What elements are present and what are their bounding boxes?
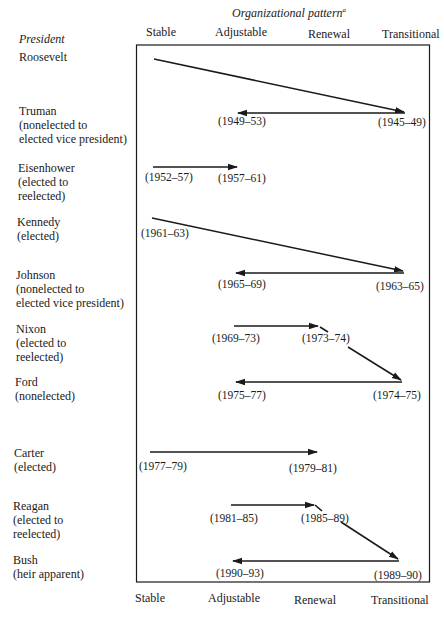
period-label: (1990–93) bbox=[216, 567, 264, 579]
column-header-transitional-bottom: Transitional bbox=[371, 593, 429, 608]
period-label: (1949–53) bbox=[218, 115, 266, 127]
period-label: (1977–79) bbox=[139, 460, 187, 472]
period-label: (1969–73) bbox=[212, 332, 260, 344]
arrow-roosevelt-to-transitional bbox=[154, 59, 404, 112]
period-label: (1981–85) bbox=[210, 512, 258, 524]
arrow-reagan-to-transitional bbox=[341, 522, 398, 559]
period-label: (1945–49) bbox=[378, 116, 426, 128]
period-label: (1963–65) bbox=[376, 280, 424, 292]
period-label: (1965–69) bbox=[218, 278, 266, 290]
pattern-diagram bbox=[0, 0, 444, 617]
period-label: (1979–81) bbox=[289, 462, 337, 474]
period-label: (1961–63) bbox=[141, 227, 189, 239]
column-header-renewal-bottom: Renewal bbox=[294, 593, 336, 608]
column-header-stable-bottom: Stable bbox=[135, 591, 165, 606]
period-label: (1957–61) bbox=[218, 172, 266, 184]
period-label: (1973–74) bbox=[302, 332, 350, 344]
period-label: (1985–89) bbox=[301, 512, 349, 524]
period-label: (1952–57) bbox=[145, 171, 193, 183]
arrow-kennedy-to-transitional bbox=[152, 218, 403, 271]
period-label: (1989–90) bbox=[374, 569, 422, 581]
column-header-adjustable-bottom: Adjustable bbox=[208, 591, 260, 606]
period-label: (1974–75) bbox=[373, 389, 421, 401]
connector-reagan-tick bbox=[315, 505, 322, 511]
period-label: (1975–77) bbox=[218, 389, 266, 401]
arrow-nixon-to-transitional bbox=[348, 347, 401, 380]
